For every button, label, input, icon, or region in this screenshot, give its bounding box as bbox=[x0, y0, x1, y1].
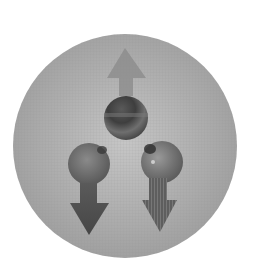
particle-bottom-right bbox=[141, 141, 183, 183]
diagram-canvas bbox=[0, 0, 255, 280]
particle-top bbox=[104, 96, 148, 140]
spin-sphere-diagram: Large gray sphere containing three small… bbox=[0, 0, 255, 280]
particle-bottom-left bbox=[68, 143, 110, 185]
